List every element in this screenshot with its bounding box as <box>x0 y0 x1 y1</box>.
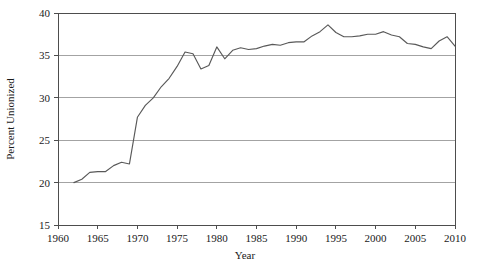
chart-container: 152025303540 196019651970197519801985199… <box>0 0 478 271</box>
y-tick-label-30: 30 <box>39 92 51 104</box>
x-tick-label-1985: 1985 <box>246 232 269 244</box>
x-tick-label-1990: 1990 <box>285 232 308 244</box>
x-tick-label-1995: 1995 <box>325 232 348 244</box>
x-tick-label-1980: 1980 <box>206 232 229 244</box>
y-axis-title: Percent Unionized <box>4 78 16 160</box>
x-tick-label-1970: 1970 <box>126 232 149 244</box>
x-tick-label-1975: 1975 <box>166 232 189 244</box>
y-tick-label-40: 40 <box>39 7 51 19</box>
y-tick-label-20: 20 <box>39 177 51 189</box>
gridlines-group <box>58 13 455 183</box>
plot-frame <box>58 13 455 225</box>
y-tick-label-25: 25 <box>39 134 51 146</box>
x-axis-ticks-group: 1960196519701975198019851990199520002005… <box>47 225 467 244</box>
x-tick-label-1965: 1965 <box>87 232 110 244</box>
line-chart: 152025303540 196019651970197519801985199… <box>0 0 478 271</box>
y-tick-label-15: 15 <box>39 219 51 231</box>
x-tick-label-2000: 2000 <box>365 232 388 244</box>
x-tick-label-2005: 2005 <box>404 232 427 244</box>
x-tick-label-1960: 1960 <box>47 232 70 244</box>
y-axis-ticks-group: 152025303540 <box>39 7 58 231</box>
x-tick-label-2010: 2010 <box>444 232 467 244</box>
x-axis-title: Year <box>235 249 256 261</box>
data-series-line <box>74 25 455 183</box>
y-tick-label-35: 35 <box>39 49 51 61</box>
